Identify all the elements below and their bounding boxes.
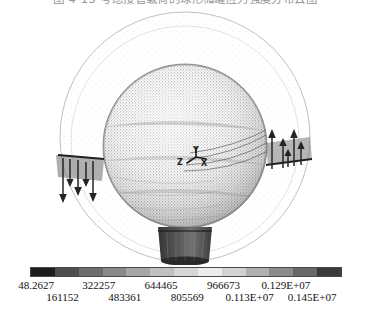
axis-label-z: Z	[177, 159, 183, 167]
colorbar-band-11	[293, 268, 317, 276]
figure-caption: 图 4-15 考虑接管载荷的球形储罐应力强度分布云图	[0, 0, 370, 9]
colorbar-band-4	[126, 268, 150, 276]
colorbar-tick-lower-4: 0.145E+07	[288, 291, 337, 304]
colorbar-tick-lower-1: 483361	[108, 291, 141, 304]
colorbar-tick-lower-3: 0.113E+07	[226, 291, 274, 304]
colorbar-ticks-lower: 1611524833618055690.113E+070.145E+07	[0, 291, 370, 304]
axis-label-x: X	[201, 160, 207, 168]
colorbar-band-9	[246, 268, 270, 276]
colorbar-band-5	[150, 268, 174, 276]
colorbar-tick-lower-0: 161152	[46, 291, 79, 304]
colorbar-band-0	[31, 268, 55, 276]
axis-label-y: Y	[193, 147, 199, 155]
colorbar-band-8	[222, 268, 246, 276]
colorbar-legend: 48.26273222576444659666730.129E+07 16115…	[0, 266, 370, 317]
colorbar-tick-lower-2: 805569	[171, 291, 204, 304]
colorbar-band-3	[103, 268, 127, 276]
bottom-nozzle	[158, 227, 212, 265]
colorbar-band-7	[198, 268, 222, 276]
colorbar-band-12	[317, 268, 341, 276]
colorbar-band-6	[174, 268, 198, 276]
plot-canvas	[0, 9, 370, 265]
colorbar-gradient	[30, 267, 342, 277]
colorbar-band-2	[79, 268, 103, 276]
colorbar-band-1	[55, 268, 79, 276]
fea-contour-plot: Y X Z	[0, 9, 370, 265]
colorbar-band-10	[269, 268, 293, 276]
figure-caption-strip: 图 4-15 考虑接管载荷的球形储罐应力强度分布云图	[0, 0, 370, 9]
